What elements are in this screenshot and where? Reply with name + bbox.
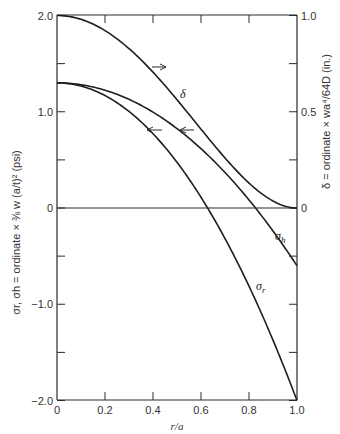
sigma-h-label: σh <box>275 229 286 245</box>
x-axis-title: r/a <box>171 420 184 432</box>
y-tick-label-left: 0 <box>47 202 53 214</box>
axis-ticks: 2.01.00−1.0−2.01.00.5000.20.40.60.81.0 <box>31 10 316 417</box>
y-tick-label-right: 0 <box>301 202 307 214</box>
plot-frame <box>57 15 297 400</box>
x-tick-label: 0.2 <box>97 404 112 416</box>
curve-σr <box>57 83 297 401</box>
y-tick-label-left: 2.0 <box>38 10 53 22</box>
y-axis-title-left: σr, σh = ordinate × ⅜ w (a/t)² (psi) <box>10 150 22 315</box>
x-tick-label: 0 <box>54 404 60 416</box>
y-tick-label-left: −1.0 <box>31 298 53 310</box>
y-axis-title-right: δ = ordinate × wa⁴/64D (in.) <box>320 54 332 189</box>
x-tick-label: 1.0 <box>289 404 304 416</box>
y-tick-label-right: 0.5 <box>301 106 316 118</box>
x-tick-label: 0.6 <box>193 404 208 416</box>
sigma-r-label: σr <box>256 279 266 295</box>
labels: δσhσrr/aσr, σh = ordinate × ⅜ w (a/t)² (… <box>10 54 332 432</box>
plate-stress-deflection-chart: 2.01.00−1.0−2.01.00.5000.20.40.60.81.0 δ… <box>0 0 340 434</box>
y-tick-label-right: 1.0 <box>301 10 316 22</box>
curve-σh <box>57 83 297 266</box>
y-tick-label-left: 1.0 <box>38 106 53 118</box>
y-tick-label-left: −2.0 <box>31 395 53 407</box>
x-tick-label: 0.8 <box>241 404 256 416</box>
delta-label: δ <box>180 87 186 101</box>
x-tick-label: 0.4 <box>145 404 160 416</box>
curve-δ <box>57 16 297 209</box>
